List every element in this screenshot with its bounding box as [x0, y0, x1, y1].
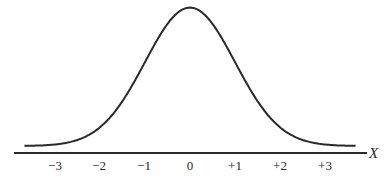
x-axis-label: X — [368, 145, 379, 161]
tick-label: −3 — [48, 158, 62, 173]
tick-label: −2 — [92, 158, 106, 173]
tick-label: +3 — [318, 158, 332, 173]
tick-label: +2 — [273, 158, 287, 173]
x-tick-labels: −3 −2 −1 0 +1 +2 +3 — [48, 158, 332, 173]
tick-label: 0 — [187, 158, 194, 173]
normal-distribution-chart: X −3 −2 −1 0 +1 +2 +3 — [0, 0, 391, 183]
tick-label: +1 — [228, 158, 242, 173]
tick-label: −1 — [137, 158, 151, 173]
bell-curve — [24, 8, 355, 146]
